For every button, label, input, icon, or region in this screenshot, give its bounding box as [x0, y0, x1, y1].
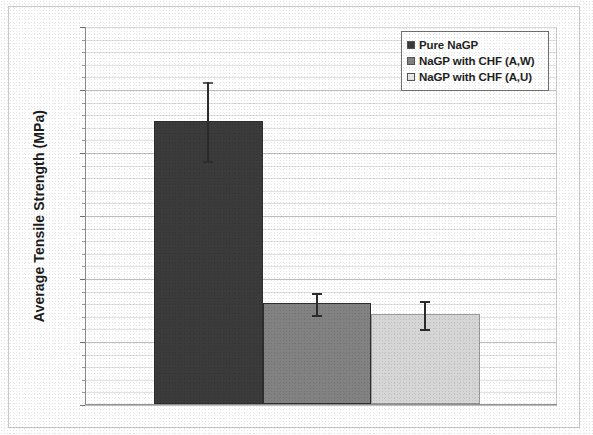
error-cap-upper: [312, 293, 322, 295]
legend-swatch-icon: [407, 73, 415, 81]
error-cap-upper: [203, 82, 213, 84]
legend-swatch-icon: [407, 41, 415, 49]
bar-2: [263, 303, 372, 404]
legend-item-1[interactable]: Pure NaGP: [407, 37, 543, 52]
bar-texture: [264, 304, 371, 403]
axis-top: [85, 27, 557, 28]
y-tick: [80, 405, 85, 406]
gridline-minor: [85, 115, 557, 116]
error-bar-2: [316, 293, 318, 315]
legend-item-2[interactable]: NaGP with CHF (A,W): [407, 53, 543, 68]
error-cap-upper: [420, 301, 430, 303]
error-cap-lower: [312, 315, 322, 317]
legend-swatch-icon: [407, 57, 415, 65]
y-axis-title: Average Tensile Strength (MPa): [31, 110, 47, 322]
figure-root: 121086420 Average Tensile Strength (MPa)…: [0, 0, 593, 435]
axis-right: [556, 27, 557, 405]
axis-left: [85, 27, 86, 405]
legend-label: Pure NaGP: [419, 39, 478, 51]
error-cap-lower: [420, 329, 430, 331]
bar-texture: [155, 122, 262, 404]
axis-bottom: [85, 404, 557, 405]
legend: Pure NaGPNaGP with CHF (A,W)NaGP with CH…: [401, 31, 549, 91]
bar-1: [154, 121, 263, 405]
gridline-minor: [85, 103, 557, 104]
error-bar-1: [207, 82, 209, 161]
legend-label: NaGP with CHF (A,U): [419, 71, 532, 83]
error-bar-3: [424, 301, 426, 329]
figure-frame: 121086420 Average Tensile Strength (MPa)…: [8, 6, 580, 428]
legend-item-3[interactable]: NaGP with CHF (A,U): [407, 69, 543, 84]
legend-label: NaGP with CHF (A,W): [419, 55, 534, 67]
legend-items: Pure NaGPNaGP with CHF (A,W)NaGP with CH…: [407, 37, 543, 84]
error-cap-lower: [203, 161, 213, 163]
gridline-major: [85, 405, 557, 406]
